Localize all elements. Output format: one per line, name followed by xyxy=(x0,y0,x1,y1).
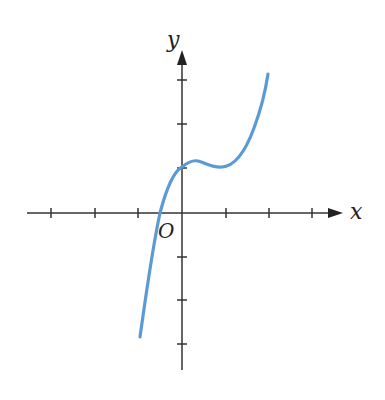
origin-label: O xyxy=(158,219,174,243)
x-axis-label: x xyxy=(350,199,363,224)
function-graph: y x O xyxy=(0,0,385,400)
x-axis xyxy=(27,208,343,218)
y-axis-arrow-icon xyxy=(177,50,187,65)
function-curve xyxy=(140,74,268,337)
y-axis xyxy=(177,50,187,370)
x-axis-arrow-icon xyxy=(328,208,343,218)
y-axis-label: y xyxy=(166,27,180,52)
